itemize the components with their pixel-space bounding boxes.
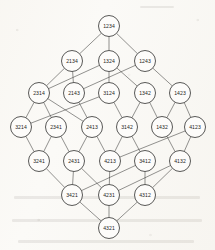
node-label: 1324: [103, 58, 115, 64]
node-label: 1423: [174, 90, 186, 96]
node-label: 2143: [68, 90, 80, 96]
graph-edge: [80, 202, 101, 221]
node-label: 4132: [174, 158, 186, 164]
graph-edge: [44, 102, 52, 117]
graph-node-4132[interactable]: 4132: [170, 151, 191, 172]
graph-node-1432[interactable]: 1432: [152, 117, 173, 138]
graph-edge: [153, 68, 173, 86]
graph-edge: [117, 33, 138, 53]
node-label: 4123: [189, 124, 201, 130]
graph-node-4321[interactable]: 4321: [99, 218, 120, 239]
node-label: 1234: [103, 23, 115, 29]
graph-edge: [153, 168, 173, 187]
graph-node-4123[interactable]: 4123: [185, 117, 206, 138]
graph-node-1423[interactable]: 1423: [170, 83, 191, 104]
diagram-page: 1234213413241243231421433124134214233214…: [0, 0, 215, 250]
graph-edge: [82, 168, 102, 187]
graph-node-1324[interactable]: 1324: [99, 51, 120, 72]
graph-edge: [26, 136, 34, 151]
node-label: 3241: [33, 158, 45, 164]
node-label: 4231: [103, 192, 115, 198]
node-label: 1342: [139, 90, 151, 96]
graph-edge: [167, 102, 175, 117]
graph-node-1243[interactable]: 1243: [135, 51, 156, 72]
graph-node-3241[interactable]: 3241: [29, 151, 50, 172]
node-label: 2314: [33, 90, 45, 96]
graph-edge: [61, 136, 69, 151]
graph-edge: [117, 68, 137, 86]
graph-node-2134[interactable]: 2134: [62, 51, 83, 72]
graph-edge: [73, 171, 74, 184]
graph-node-2314[interactable]: 2314: [29, 83, 50, 104]
graph-node-2143[interactable]: 2143: [64, 83, 85, 104]
graph-node-3142[interactable]: 3142: [117, 117, 138, 138]
graph-node-2431[interactable]: 2431: [64, 151, 85, 172]
graph-edge: [79, 136, 87, 151]
node-label: 2134: [66, 58, 78, 64]
node-label: 2341: [50, 124, 62, 130]
graph-node-4213[interactable]: 4213: [100, 151, 121, 172]
graph-node-2413[interactable]: 2413: [82, 117, 103, 138]
graph-edge: [97, 136, 105, 151]
graph-node-4231[interactable]: 4231: [99, 185, 120, 206]
node-label: 3421: [66, 192, 78, 198]
graph-edge: [115, 136, 123, 151]
graph-edge: [184, 137, 191, 152]
graph-node-4312[interactable]: 4312: [135, 185, 156, 206]
node-label: 4321: [103, 225, 115, 231]
nodes-layer: 1234213413241243231421433124134214233214…: [11, 16, 206, 239]
node-label: 1243: [139, 58, 151, 64]
graph-edge: [26, 102, 34, 117]
graph-edge: [184, 103, 191, 118]
graph-node-3214[interactable]: 3214: [11, 117, 32, 138]
node-label: 3412: [139, 158, 151, 164]
graph-node-1342[interactable]: 1342: [135, 83, 156, 104]
graph-node-2341[interactable]: 2341: [46, 117, 67, 138]
node-label: 1432: [156, 124, 168, 130]
node-label: 2431: [68, 158, 80, 164]
graph-edge: [79, 102, 87, 117]
node-label: 4312: [139, 192, 151, 198]
graph-edge: [80, 33, 102, 54]
node-label: 4213: [104, 158, 116, 164]
node-label: 3142: [121, 124, 133, 130]
graph-edge: [44, 136, 52, 151]
graph-node-3124[interactable]: 3124: [99, 83, 120, 104]
graph-edge: [114, 102, 122, 117]
graph-edge: [47, 68, 65, 85]
node-label: 3124: [103, 90, 115, 96]
node-label: 3214: [15, 124, 27, 130]
graph-edge: [46, 169, 64, 188]
graph-edge: [117, 202, 138, 221]
graph-edge: [150, 102, 158, 117]
graph-node-3412[interactable]: 3412: [135, 151, 156, 172]
graph-edge: [132, 102, 140, 117]
lattice-graph: 1234213413241243231421433124134214233214…: [0, 0, 215, 250]
graph-node-3421[interactable]: 3421: [62, 185, 83, 206]
graph-node-1234[interactable]: 1234: [99, 16, 120, 37]
graph-edge: [167, 136, 175, 151]
node-label: 2413: [86, 124, 98, 130]
